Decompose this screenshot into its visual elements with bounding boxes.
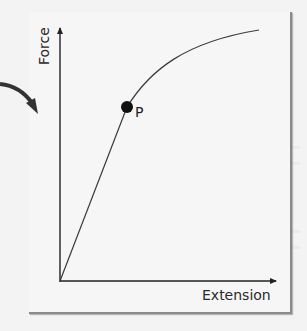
x-axis-label: Extension bbox=[202, 287, 271, 303]
pointer-arrow-icon bbox=[0, 84, 38, 114]
linear-segment bbox=[60, 107, 127, 281]
curved-segment bbox=[127, 30, 259, 107]
point-p-label: P bbox=[135, 104, 143, 120]
point-p-marker bbox=[121, 101, 133, 113]
y-axis-label: Force bbox=[36, 27, 52, 65]
